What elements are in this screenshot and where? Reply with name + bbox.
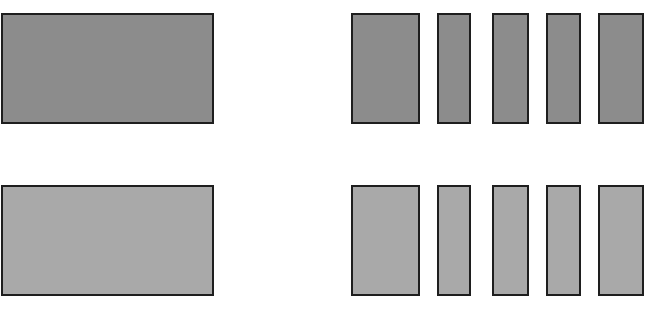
- light-bar-4: [546, 185, 581, 296]
- dark-bar-5: [598, 13, 644, 124]
- light-bar-3: [492, 185, 529, 296]
- light-bar-1: [351, 185, 420, 296]
- dark-bar-4: [546, 13, 581, 124]
- dark-bar-1: [351, 13, 420, 124]
- light-bar-5: [598, 185, 644, 296]
- dark-bar-3: [492, 13, 529, 124]
- dark-bar-2: [437, 13, 471, 124]
- light-bar-2: [437, 185, 471, 296]
- light-big-block: [1, 185, 214, 296]
- dark-big-block: [1, 13, 214, 124]
